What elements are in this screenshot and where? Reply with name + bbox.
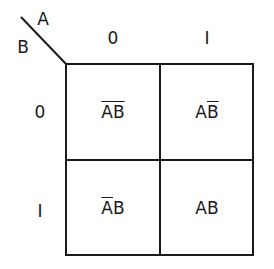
- cell-a0-b1: AB: [66, 160, 160, 256]
- cell-a1-b0: AB: [160, 64, 254, 160]
- term-b: B: [113, 198, 125, 218]
- term-b: B: [207, 198, 219, 218]
- term-not-b: B: [113, 102, 125, 122]
- term-not-a: A: [101, 198, 113, 218]
- variable-b-label: B: [16, 39, 30, 56]
- column-header-1: I: [192, 30, 222, 47]
- cell-a1-b1: AB: [160, 160, 254, 256]
- column-header-0: 0: [98, 30, 128, 47]
- row-header-1: I: [30, 203, 50, 220]
- term-not-a: A: [101, 102, 113, 122]
- term-a: A: [195, 102, 207, 122]
- variable-a-label: A: [36, 11, 50, 28]
- term-not-b: B: [207, 102, 219, 122]
- term-a: A: [195, 198, 207, 218]
- cell-a0-b0: AB: [66, 64, 160, 160]
- row-header-0: 0: [30, 104, 50, 121]
